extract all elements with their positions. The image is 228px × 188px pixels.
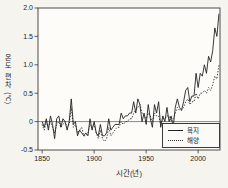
y-axis-label-char: 온 bbox=[5, 54, 11, 62]
y-tick-label: 1.5 bbox=[23, 33, 33, 40]
x-tick-label: 1850 bbox=[34, 155, 50, 162]
legend-label-ocean: 해양 bbox=[187, 137, 199, 144]
y-tick-label: -0.5 bbox=[21, 146, 33, 153]
legend: 육지 해양 bbox=[162, 123, 220, 148]
y-axis-label-char: 차 bbox=[5, 81, 11, 89]
x-tick-label: 1950 bbox=[138, 155, 154, 162]
solid-line-swatch bbox=[168, 130, 183, 131]
y-tick-label: 2.0 bbox=[23, 4, 33, 11]
legend-item-ocean: 해양 bbox=[168, 137, 219, 144]
x-tick-label: 2000 bbox=[190, 155, 206, 162]
legend-label-land: 육지 bbox=[187, 127, 199, 134]
y-tick-label: 0.5 bbox=[23, 90, 33, 97]
x-axis-label: 시간(년) bbox=[38, 167, 220, 178]
x-tick-label: 1900 bbox=[86, 155, 102, 162]
legend-item-land: 육지 bbox=[168, 127, 219, 134]
y-axis-label-char: 편 bbox=[5, 73, 11, 81]
figure: 2.01.51.00.50-0.51850190019502000 온도편차(℃… bbox=[0, 0, 228, 188]
y-tick-label: 0 bbox=[29, 118, 33, 125]
temperature-anomaly-line-chart: 2.01.51.00.50-0.51850190019502000 bbox=[0, 0, 228, 188]
y-axis-label-char: 도 bbox=[5, 62, 11, 70]
dotted-line-swatch bbox=[168, 140, 183, 141]
y-tick-label: 1.0 bbox=[23, 61, 33, 68]
y-axis-label: 온도편차(℃) bbox=[3, 54, 13, 102]
y-axis-unit: (℃) bbox=[4, 92, 12, 104]
